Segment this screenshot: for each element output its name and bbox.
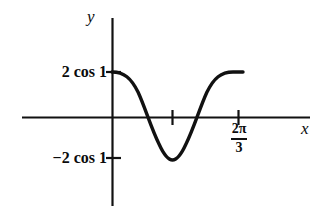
x-axis-label: x — [301, 120, 309, 137]
cosine-curve-figure: y x 2 cos 1 −2 cos 1 2π 3 — [0, 0, 325, 214]
fraction-numerator: 2π — [230, 122, 249, 138]
y-tick-label-max: 2 cos 1 — [62, 64, 107, 80]
fraction: 2π 3 — [230, 122, 249, 155]
plot-area — [0, 0, 325, 214]
y-tick-label-min: −2 cos 1 — [53, 150, 107, 166]
fraction-denominator: 3 — [230, 140, 249, 156]
y-axis-label: y — [87, 8, 95, 25]
x-tick-label-2pi-over-3: 2π 3 — [224, 122, 254, 155]
